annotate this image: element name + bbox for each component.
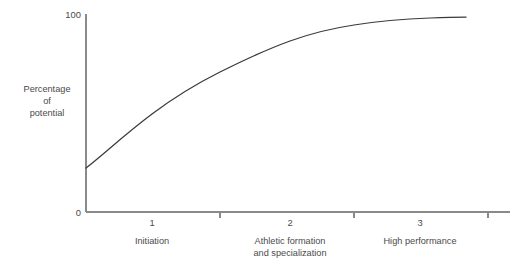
stage-labels: Initiation Athletic formation and specia… [135,236,457,258]
axes-group [86,14,510,212]
series-group [86,17,466,168]
x-tick-label-1: 1 [149,217,154,228]
x-tick-labels: 1 2 3 [149,217,422,228]
x-tick-label-2: 2 [287,217,292,228]
y-axis-label-line-1: Percentage [24,84,71,94]
y-axis-label-line-2: of [43,96,51,106]
stage-label-athletic-formation-line-2: and specialization [253,248,326,258]
y-axis-label: Percentage of potential [24,84,71,118]
stage-label-initiation: Initiation [135,236,169,246]
y-tick-labels: 100 0 [65,9,81,218]
y-tick-label-100: 100 [65,9,81,20]
x-tick-label-3: 3 [417,217,422,228]
chart-canvas: 100 0 Percentage of potential 1 2 3 Init… [0,0,524,269]
stage-label-athletic-formation-line-1: Athletic formation [255,236,326,246]
x-axis-ticks [220,212,488,218]
percentage-of-potential-curve [86,17,466,168]
stage-label-high-performance: High performance [383,236,456,246]
y-tick-label-0: 0 [76,207,81,218]
y-axis-label-line-3: potential [30,108,65,118]
chart-figure: 100 0 Percentage of potential 1 2 3 Init… [0,0,524,269]
